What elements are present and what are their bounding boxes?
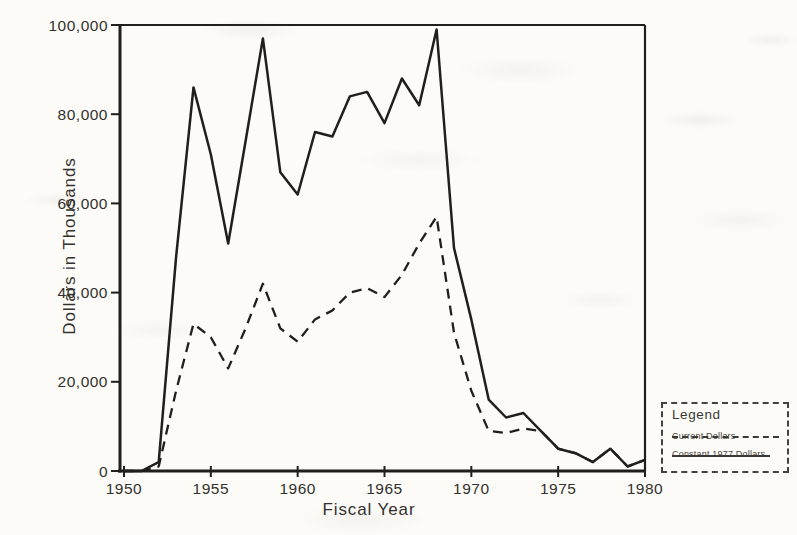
x-tick-label: 1955	[193, 480, 229, 497]
series-line-current-dollars	[124, 217, 645, 471]
x-tick-label: 1970	[453, 480, 489, 497]
legend-label-constant-1977-dollars: Constant 1977 Dollars	[672, 449, 765, 459]
y-tick-label: 0	[99, 463, 108, 480]
x-tick-label: 1965	[366, 480, 402, 497]
series-line-constant-1977-dollars	[124, 30, 645, 472]
x-axis-title: Fiscal Year	[254, 500, 484, 520]
x-tick-label: 1960	[279, 480, 315, 497]
y-axis-title: Dollars in Thousands	[60, 136, 80, 356]
legend-box: Legend Current Dollars Constant 1977 Dol…	[661, 402, 789, 473]
legend-item-constant-1977-dollars: Constant 1977 Dollars	[672, 443, 779, 459]
y-tick-label: 20,000	[58, 373, 108, 390]
solid-line-sample	[672, 455, 770, 457]
x-tick-label: 1980	[627, 480, 663, 497]
x-tick-label: 1975	[540, 480, 576, 497]
scanned-chart-page: 020,00040,00060,00080,000100,00019501955…	[0, 0, 797, 535]
legend-item-current-dollars: Current Dollars	[672, 425, 779, 441]
x-tick-label: 1950	[106, 480, 142, 497]
dashed-line-sample	[672, 436, 779, 438]
y-tick-label: 100,000	[48, 17, 108, 34]
legend-title: Legend	[672, 407, 779, 422]
y-tick-label: 80,000	[58, 106, 108, 123]
